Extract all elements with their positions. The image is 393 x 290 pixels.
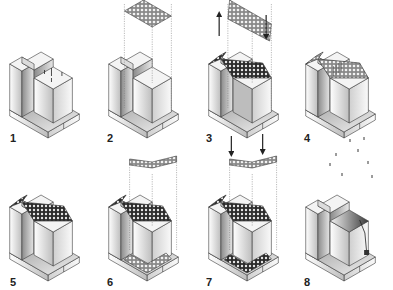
building-step-2 [109, 0, 179, 138]
wing-left-front [209, 64, 221, 117]
building-step-4 [306, 52, 376, 138]
building-step-3 [209, 0, 279, 138]
step-number-label: 5 [10, 277, 16, 288]
building-step-6 [109, 156, 179, 281]
step-number-label: 6 [107, 277, 113, 288]
wing-left-front [209, 207, 221, 260]
step-number-label: 3 [206, 133, 212, 144]
floating-roof-slope [228, 0, 271, 41]
step-number-label: 8 [304, 277, 310, 288]
diagram-canvas [0, 0, 393, 290]
wing-left-front [10, 64, 22, 117]
building-step-1 [10, 52, 80, 138]
water-tank [364, 250, 369, 255]
wing-left-front [109, 207, 121, 260]
step-number-label: 2 [107, 133, 113, 144]
floating-corner-module [130, 156, 177, 168]
wing-left-front [306, 64, 318, 117]
step-number-label: 4 [304, 133, 310, 144]
wing-inner-face [318, 207, 330, 260]
wing-inner-face [22, 64, 34, 117]
building-step-8 [306, 137, 376, 281]
step-number-label: 7 [206, 277, 212, 288]
floating-roof-panel [124, 0, 171, 27]
wing-left-front [306, 207, 318, 260]
building-step-7 [209, 134, 279, 281]
wing-inner-face [121, 64, 133, 117]
step-number-label: 1 [10, 133, 16, 144]
building-step-5 [10, 195, 80, 281]
floating-corner-module [230, 156, 277, 168]
wing-left-front [109, 64, 121, 117]
wing-left-front [10, 207, 22, 260]
